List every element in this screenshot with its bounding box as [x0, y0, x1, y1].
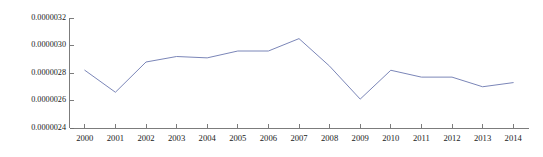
y-axis-tick-label: 0.0000028	[31, 68, 66, 77]
x-axis-tick-label: 2003	[168, 133, 185, 143]
x-axis-tick-label: 2011	[413, 133, 430, 143]
x-axis-tick-mark-group	[85, 124, 513, 129]
x-axis-tick-label: 2005	[229, 133, 246, 143]
data-series-group	[85, 39, 513, 100]
y-axis-tick-label: 0.0000026	[31, 95, 66, 104]
chart-canvas: 0.00000240.00000260.00000280.00000300.00…	[0, 0, 543, 157]
y-axis-tick-label: 0.0000024	[31, 123, 66, 132]
y-axis-tick-label: 0.0000030	[31, 40, 66, 49]
x-axis-tick-label: 2008	[321, 133, 338, 143]
x-axis-tick-label: 2014	[505, 133, 523, 143]
x-axis-tick-label: 2006	[260, 133, 278, 143]
line-chart-figure: 0.00000240.00000260.00000280.00000300.00…	[0, 0, 543, 157]
x-axis-tick-label: 2012	[443, 133, 460, 143]
series-line	[85, 39, 513, 100]
x-axis-tick-label: 2001	[107, 133, 124, 143]
x-axis-tick-label: 2002	[137, 133, 154, 143]
x-axis-tick-label: 2013	[474, 133, 491, 143]
y-axis-tick-label: 0.0000032	[31, 13, 66, 22]
y-axis-tick-label-group: 0.00000240.00000260.00000280.00000300.00…	[31, 13, 66, 132]
y-axis-tick-mark-group	[70, 18, 75, 128]
x-axis-tick-label-group: 2000200120022003200420052006200720082009…	[76, 133, 522, 143]
x-axis-tick-label: 2009	[352, 133, 369, 143]
x-axis-tick-label: 2010	[382, 133, 399, 143]
x-axis-tick-label: 2000	[76, 133, 93, 143]
x-axis-tick-label: 2004	[199, 133, 217, 143]
x-axis-tick-label: 2007	[290, 133, 308, 143]
